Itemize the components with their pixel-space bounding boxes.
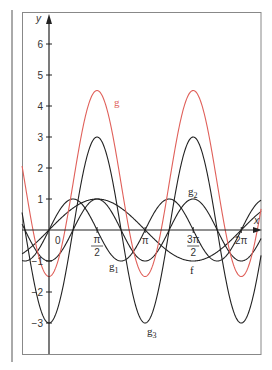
x-tick-label-denominator: 2 <box>94 247 100 258</box>
y-tick-label: 1 <box>37 194 43 205</box>
label-g: g <box>114 96 120 108</box>
y-tick-label: −3 <box>32 318 44 329</box>
plot-frame <box>23 13 262 355</box>
x-tick-label: π <box>142 235 149 246</box>
curve-g <box>22 91 261 277</box>
label-f: f <box>190 264 194 276</box>
x-axis-label: x <box>253 215 260 226</box>
y-tick-label: 5 <box>37 70 43 81</box>
x-tick-label-numerator: 3π <box>187 234 200 245</box>
curves-group <box>22 91 261 323</box>
y-axis-label: y <box>35 13 42 24</box>
y-tick-label: −1 <box>32 256 44 267</box>
x-tick-label-numerator: π <box>94 234 101 245</box>
label-g3: g3 <box>147 325 157 340</box>
ticks-group: 654321−1−2−30π2π3π22π <box>32 39 248 329</box>
function-plot: 654321−1−2−30π2π3π22π y x f g1 g2 g3 g <box>0 0 272 370</box>
label-g2: g2 <box>188 185 198 200</box>
x-tick-label: 0 <box>55 235 61 246</box>
x-tick-label-denominator: 2 <box>190 247 196 258</box>
y-tick-label: 4 <box>37 101 43 112</box>
axes <box>22 14 262 354</box>
y-tick-label: 3 <box>37 132 43 143</box>
y-tick-label: −2 <box>32 287 44 298</box>
label-g1: g1 <box>109 260 119 275</box>
y-axis-arrow-icon <box>46 14 52 24</box>
y-tick-label: 6 <box>37 39 43 50</box>
x-tick-label: 2π <box>235 235 248 246</box>
y-tick-label: 2 <box>37 163 43 174</box>
